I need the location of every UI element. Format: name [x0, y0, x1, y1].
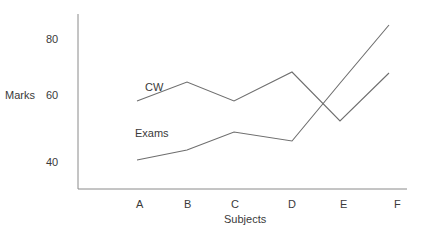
y-tick-60: 60 — [46, 89, 58, 101]
x-axis-label: Subjects — [224, 213, 267, 225]
line-chart: 80 60 40 Marks A B C D E F Subjects CW E… — [0, 0, 423, 233]
y-tick-40: 40 — [46, 156, 58, 168]
series-cw-line — [137, 72, 389, 121]
x-tick-b: B — [184, 198, 191, 210]
y-axis-label: Marks — [5, 89, 35, 101]
series-exams-line — [137, 25, 389, 160]
y-tick-80: 80 — [46, 33, 58, 45]
x-tick-e: E — [340, 198, 347, 210]
x-tick-c: C — [231, 198, 239, 210]
series-label-cw: CW — [145, 81, 164, 93]
series-label-exams: Exams — [135, 127, 169, 139]
x-tick-f: F — [394, 198, 401, 210]
x-tick-a: A — [136, 198, 144, 210]
x-tick-d: D — [288, 198, 296, 210]
